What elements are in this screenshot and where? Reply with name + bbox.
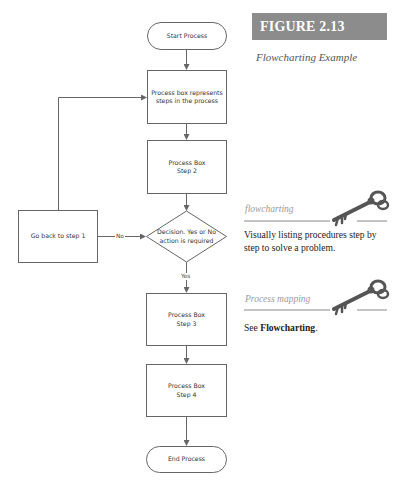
- key-term-label: flowcharting: [245, 204, 294, 214]
- node-label: Decision. Yes or No action is required: [157, 228, 216, 245]
- node-label: Process box represents steps in the proc…: [151, 89, 223, 106]
- key-term-underline: [244, 220, 330, 222]
- definition-suffix: .: [315, 322, 317, 333]
- no-edge-label: No: [115, 233, 125, 240]
- node-label: Process Box Step 4: [168, 382, 205, 399]
- figure-caption: Flowcharting Example: [256, 51, 357, 63]
- figure-number-banner: FIGURE 2.13: [252, 13, 387, 40]
- go-back-node: Go back to step 1: [18, 210, 98, 263]
- yes-edge-label: Yes: [180, 273, 191, 280]
- key-term-definition: Visually listing procedures step by step…: [244, 228, 394, 254]
- process-box-step-1: Process box represents steps in the proc…: [147, 70, 227, 124]
- key-term-definition: See Flowcharting.: [244, 321, 394, 334]
- node-label: Process Box Step 2: [169, 159, 206, 176]
- figure-label: FIGURE 2.13: [260, 19, 345, 35]
- key-term-label: Process mapping: [245, 294, 310, 304]
- key-icon: [328, 277, 392, 321]
- node-label: Start Process: [167, 32, 208, 41]
- node-label: Go back to step 1: [31, 232, 86, 241]
- end-process-node: End Process: [146, 446, 227, 473]
- definition-prefix: See: [244, 322, 260, 333]
- process-box-step-4: Process Box Step 4: [146, 364, 227, 417]
- node-label: End Process: [168, 455, 205, 464]
- process-box-step-2: Process Box Step 2: [147, 140, 227, 194]
- key-term-underline: [244, 309, 330, 311]
- cross-reference-link: Flowcharting: [260, 322, 315, 333]
- process-box-step-3: Process Box Step 3: [146, 293, 227, 346]
- node-label: Process Box Step 3: [168, 311, 205, 328]
- key-icon: [328, 188, 392, 232]
- start-process-node: Start Process: [147, 22, 227, 50]
- decision-node: Decision. Yes or No action is required: [146, 211, 227, 262]
